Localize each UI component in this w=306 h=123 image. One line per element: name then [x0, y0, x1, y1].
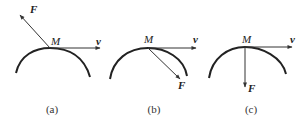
panel-caption: (a) — [46, 103, 59, 116]
velocity-label: v — [290, 33, 295, 45]
force-arrow — [148, 48, 180, 79]
point-label: M — [143, 33, 154, 45]
point-label: M — [241, 33, 252, 45]
force-velocity-diagram: F M v (a) F M v (b) F M v (c) — [0, 0, 306, 123]
curve-arc — [16, 48, 90, 77]
velocity-label: v — [96, 35, 101, 47]
panel-caption: (b) — [148, 103, 161, 116]
force-label: F — [29, 3, 38, 15]
force-arrow — [20, 15, 50, 48]
panel-caption: (c) — [245, 103, 258, 116]
force-label: F — [247, 82, 256, 94]
force-label: F — [177, 79, 186, 91]
curve-arc — [209, 47, 286, 78]
panel-a: F M v (a) — [16, 3, 101, 116]
point-label: M — [50, 35, 61, 47]
velocity-label: v — [193, 33, 198, 45]
panel-c: F M v (c) — [209, 33, 295, 116]
panel-b: F M v (b) — [110, 33, 198, 116]
